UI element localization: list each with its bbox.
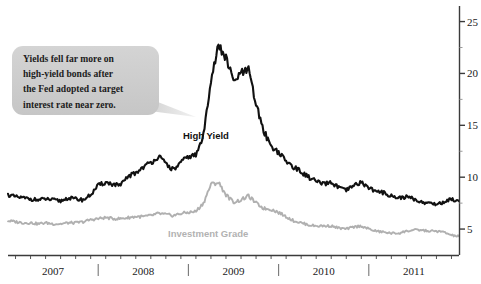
series-label-investment-grade: Investment Grade — [168, 228, 248, 239]
callout-line: the Fed adopted a target — [23, 83, 124, 94]
x-axis-tick-labels: 20072008200920102011 — [42, 265, 425, 277]
y-axis-tick-labels: 510152025 — [467, 16, 479, 236]
x-axis-tick-label: 2009 — [223, 265, 246, 277]
callout-line: high-yield bonds after — [23, 68, 114, 79]
chart-figure: 510152025 20072008200920102011 High Yiel… — [0, 0, 481, 284]
x-axis-tick-label: 2008 — [132, 265, 155, 277]
y-axis-ticks — [460, 22, 466, 230]
y-axis-tick-label: 20 — [467, 67, 479, 79]
y-axis-tick-label: 15 — [467, 119, 479, 131]
y-axis-tick-label: 25 — [467, 16, 479, 28]
y-axis-tick-label: 5 — [467, 223, 473, 235]
x-axis-tick-label: 2011 — [403, 265, 425, 277]
series-label-high-yield: High Yield — [183, 130, 229, 141]
y-axis-tick-label: 10 — [467, 171, 479, 183]
callout-line: Yields fell far more on — [23, 53, 115, 64]
callout-line: interest rate near zero. — [23, 99, 116, 110]
x-axis-tick-label: 2007 — [42, 265, 65, 277]
x-axis-tick-label: 2010 — [313, 265, 336, 277]
chart-canvas: 510152025 20072008200920102011 High Yiel… — [0, 0, 481, 284]
x-axis-minor-ticks — [16, 256, 452, 259]
